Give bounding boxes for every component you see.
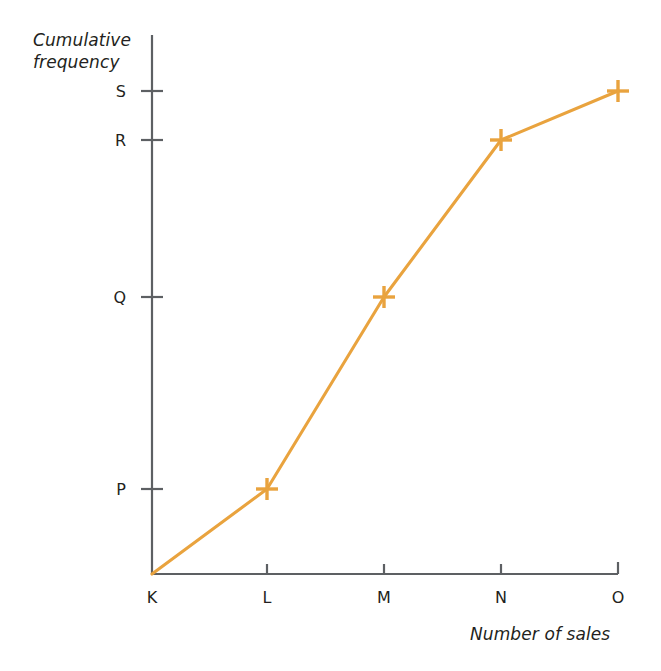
data-point-l <box>256 478 278 500</box>
x-tick-label-k: K <box>139 588 165 607</box>
y-tick-label-r: R <box>104 131 126 150</box>
y-tick-label-p: P <box>104 480 126 499</box>
x-tick-label-o: O <box>605 588 631 607</box>
data-point-m <box>373 286 395 308</box>
x-tick-label-m: M <box>371 588 397 607</box>
chart-plot-area <box>0 0 661 671</box>
x-axis-ticks <box>267 562 618 574</box>
x-tick-label-l: L <box>254 588 280 607</box>
cumulative-frequency-line <box>152 91 618 574</box>
data-point-n <box>490 129 512 151</box>
y-axis-title: Cumulative frequency <box>33 30 131 74</box>
data-point-o <box>607 80 629 102</box>
y-tick-label-q: Q <box>104 288 126 307</box>
data-point-markers <box>256 80 629 500</box>
cumulative-frequency-chart: Cumulative frequency Number of sales S R… <box>0 0 661 671</box>
y-tick-label-s: S <box>104 82 126 101</box>
x-tick-label-n: N <box>488 588 514 607</box>
x-axis-title: Number of sales <box>470 624 610 646</box>
